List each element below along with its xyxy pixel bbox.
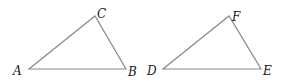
vertex-label-d: D [146,64,157,78]
vertex-label-e: E [262,64,272,78]
vertex-label-a: A [12,64,22,78]
vertex-label-b: B [127,65,137,79]
vertex-label-c: C [97,7,106,21]
triangle-abc-shape [29,16,126,69]
triangle-def-shape [163,16,261,69]
triangle-abc: A B C [12,7,137,79]
vertex-label-f: F [231,10,241,24]
triangles-diagram: A B C D E F [0,0,285,81]
triangle-def: D E F [146,10,272,78]
